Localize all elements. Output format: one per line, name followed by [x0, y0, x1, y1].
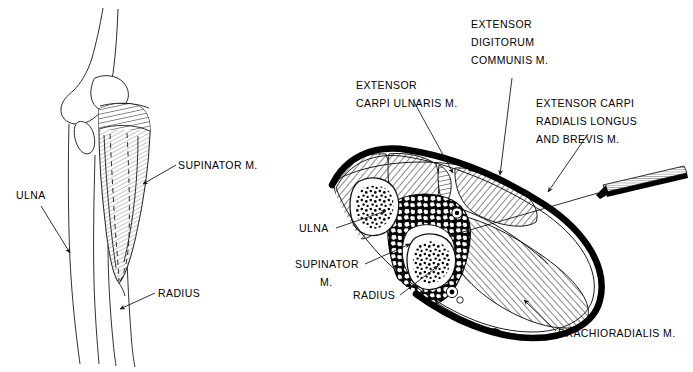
label-extensor-digitorum-communis-line2: DIGITORUM — [471, 36, 535, 48]
label-extensor-carpi-radialis-line2: RADIALIS LONGUS — [536, 115, 637, 127]
label-extensor-carpi-radialis-line3: AND BREVIS M. — [536, 133, 619, 145]
anatomy-figure: SUPINATOR M. ULNA RADIUS — [0, 0, 693, 372]
label-supinator-section-line1: SUPINATOR — [295, 258, 359, 270]
label-extensor-carpi-radialis-line1: EXTENSOR CARPI — [536, 97, 634, 109]
label-extensor-carpi-ulnaris-line2: CARPI ULNARIS M. — [356, 97, 458, 109]
label-ulna-lateral: ULNA — [16, 189, 46, 201]
label-supinator-lateral: SUPINATOR M. — [178, 159, 258, 171]
label-extensor-digitorum-communis-line1: EXTENSOR — [471, 18, 532, 30]
figure-canvas: SUPINATOR M. ULNA RADIUS — [0, 0, 693, 372]
label-brachioradialis: BRACHIORADIALIS M. — [558, 327, 675, 339]
label-radius-section: RADIUS — [353, 289, 395, 301]
label-extensor-carpi-ulnaris-line1: EXTENSOR — [356, 79, 417, 91]
label-radius-lateral: RADIUS — [158, 287, 200, 299]
label-supinator-section-line2: M. — [320, 276, 332, 288]
bone-radius-section — [407, 234, 456, 290]
label-ulna-section: ULNA — [299, 222, 329, 234]
label-extensor-digitorum-communis-line3: COMMUNIS M. — [471, 54, 548, 66]
